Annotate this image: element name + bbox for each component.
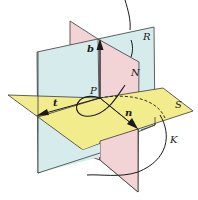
label-k: K — [169, 134, 178, 145]
label-n-vector: n — [125, 107, 132, 118]
label-s: S — [175, 99, 182, 110]
curve-k-top — [125, 0, 130, 30]
label-t: t — [53, 97, 58, 108]
label-r: R — [142, 31, 151, 42]
label-n-plane: N — [130, 67, 141, 78]
label-p: P — [89, 85, 97, 96]
label-b: b — [87, 43, 94, 54]
frenet-frame-diagram: R N S P b t n K — [0, 0, 198, 200]
